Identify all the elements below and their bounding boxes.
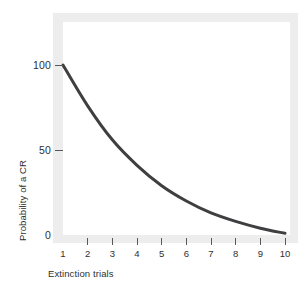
x-tick-mark bbox=[161, 238, 162, 245]
x-tick-label: 8 bbox=[226, 248, 246, 259]
x-tick-label: 3 bbox=[102, 248, 122, 259]
x-tick-label: 10 bbox=[275, 248, 295, 259]
x-tick-mark bbox=[285, 238, 286, 245]
x-tick: 7 bbox=[201, 238, 221, 259]
x-tick-mark bbox=[112, 238, 113, 245]
x-tick: 5 bbox=[152, 238, 172, 259]
x-tick-mark bbox=[211, 238, 212, 245]
x-tick: 6 bbox=[176, 238, 196, 259]
x-tick-label: 9 bbox=[250, 248, 270, 259]
x-tick-mark bbox=[235, 238, 236, 245]
x-tick: 2 bbox=[78, 238, 98, 259]
x-tick: 3 bbox=[102, 238, 122, 259]
x-tick: 8 bbox=[226, 238, 246, 259]
x-tick-label: 2 bbox=[78, 248, 98, 259]
x-tick-mark bbox=[186, 238, 187, 245]
x-tick-label: 5 bbox=[152, 248, 172, 259]
x-axis-title: Extinction trials bbox=[48, 268, 114, 279]
x-tick: 9 bbox=[250, 238, 270, 259]
x-tick-label: 4 bbox=[127, 248, 147, 259]
x-tick: 1 bbox=[53, 238, 73, 259]
x-tick: 10 bbox=[275, 238, 295, 259]
x-tick-mark bbox=[63, 238, 64, 245]
x-tick-label: 7 bbox=[201, 248, 221, 259]
x-axis-ticks: 12345678910 bbox=[0, 0, 308, 298]
x-tick-mark bbox=[260, 238, 261, 245]
x-tick-label: 6 bbox=[176, 248, 196, 259]
x-tick-label: 1 bbox=[53, 248, 73, 259]
chart-figure: 100500 Probability of a CR 12345678910 E… bbox=[0, 0, 308, 298]
x-tick-mark bbox=[137, 238, 138, 245]
x-tick-mark bbox=[87, 238, 88, 245]
x-tick: 4 bbox=[127, 238, 147, 259]
